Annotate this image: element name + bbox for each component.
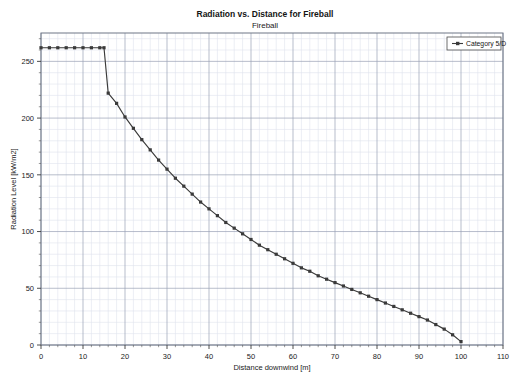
- y-tick-label: 200: [21, 114, 34, 123]
- x-tick-label: 60: [289, 352, 297, 361]
- chart-container: Radiation vs. Distance for Fireball Fire…: [0, 0, 530, 380]
- x-tick-label: 80: [373, 352, 381, 361]
- x-tick-label: 30: [163, 352, 171, 361]
- y-tick-label: 50: [26, 284, 34, 293]
- legend[interactable]: Category 5/D: [447, 37, 506, 50]
- y-axis-label: Radiation Level [kW/m2]: [9, 148, 18, 229]
- x-tick-label: 90: [415, 352, 423, 361]
- x-tick-label: 100: [455, 352, 468, 361]
- x-axis-label: Distance downwind [m]: [233, 363, 310, 372]
- x-tick-label: 20: [121, 352, 129, 361]
- x-tick-label: 70: [331, 352, 339, 361]
- x-tick-label: 10: [79, 352, 87, 361]
- chart-background: [0, 0, 530, 380]
- x-tick-label: 110: [497, 352, 509, 361]
- chart-subtitle: Fireball: [252, 21, 278, 30]
- legend-item-label: Category 5/D: [466, 40, 506, 48]
- x-tick-label: 50: [247, 352, 255, 361]
- x-tick-label: 0: [39, 352, 43, 361]
- x-tick-label: 40: [205, 352, 213, 361]
- y-tick-label: 150: [21, 171, 34, 180]
- y-tick-label: 100: [21, 227, 34, 236]
- radiation-distance-line-chart: Radiation vs. Distance for Fireball Fire…: [0, 0, 530, 380]
- y-tick-label: 0: [30, 341, 34, 350]
- chart-title: Radiation vs. Distance for Fireball: [197, 9, 334, 19]
- y-tick-label: 250: [21, 57, 34, 66]
